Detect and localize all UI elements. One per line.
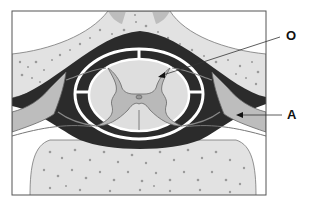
label-a: A <box>287 108 296 121</box>
central-canal <box>136 95 142 99</box>
spinal-cord-diagram <box>0 0 313 205</box>
label-o: O <box>286 29 296 42</box>
